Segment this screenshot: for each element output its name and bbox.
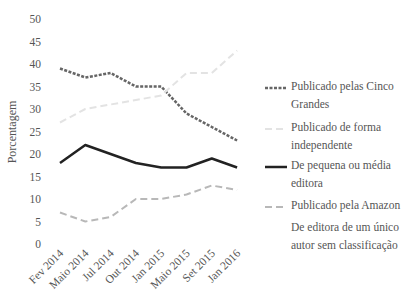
y-tick-label: 25 — [30, 126, 42, 138]
legend-swatch-icon — [264, 223, 288, 235]
x-axis-ticks: Fev 2014Maio 2014Jul 2014Out 2014Jan 201… — [26, 247, 242, 291]
legend-label-line: Publicado pelas Cinco — [291, 77, 405, 95]
legend-label: Publicado de formaindependente — [291, 118, 405, 154]
legend-item: Publicado pela Amazon — [264, 199, 405, 214]
legend-swatch-icon — [264, 201, 288, 213]
y-tick-label: 0 — [35, 238, 41, 250]
legend-label-line: De editora de um único — [291, 218, 405, 236]
legend-swatch-icon — [264, 123, 288, 135]
y-tick-label: 50 — [30, 13, 42, 25]
series-lines — [60, 51, 237, 222]
y-tick-label: 40 — [30, 58, 42, 70]
legend-label: Publicado pela Amazon — [291, 196, 405, 214]
y-axis-label: Porcentagem — [5, 100, 19, 163]
y-tick-label: 20 — [30, 148, 42, 160]
series-line-0 — [60, 69, 237, 141]
legend-item: De pequena ou médiaeditora — [264, 159, 405, 192]
legend-label-line: Publicado pela Amazon — [291, 196, 405, 214]
series-line-1 — [60, 51, 237, 123]
y-tick-label: 45 — [30, 36, 42, 48]
y-tick-label: 5 — [35, 216, 41, 228]
legend-label-line: Publicado de forma — [291, 118, 405, 136]
y-tick-label: 30 — [30, 103, 42, 115]
legend-label-line: editora — [291, 174, 405, 192]
legend-swatch-icon — [264, 161, 288, 173]
legend-swatch-icon — [264, 82, 288, 94]
legend-label-line: autor sem classificação — [291, 236, 405, 254]
legend-label: Publicado pelas CincoGrandes — [291, 77, 405, 113]
y-tick-label: 35 — [30, 81, 42, 93]
legend-item: Publicado de formaindependente — [264, 121, 405, 154]
series-line-2 — [60, 145, 237, 168]
legend-item: De editora de um únicoautor sem classifi… — [264, 221, 405, 254]
y-tick-label: 15 — [30, 171, 42, 183]
legend-label-line: De pequena ou média — [291, 156, 405, 174]
legend-label-line: Grandes — [291, 95, 405, 113]
legend-label: De editora de um únicoautor sem classifi… — [291, 218, 405, 254]
y-tick-label: 10 — [30, 193, 42, 205]
series-line-3 — [60, 186, 237, 222]
legend-label: De pequena ou médiaeditora — [291, 156, 405, 192]
legend-item: Publicado pelas CincoGrandes — [264, 80, 405, 113]
y-axis-ticks: 05101520253035404550 — [30, 13, 42, 250]
legend-label-line: independente — [291, 136, 405, 154]
